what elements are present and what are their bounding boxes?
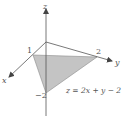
plane-diagram: z y x 1 2 −2 z = 2x + y − 2	[0, 0, 133, 118]
x-axis-label: x	[2, 76, 7, 85]
z-intercept-label: −2	[35, 91, 47, 100]
y-intercept-label: 2	[96, 47, 101, 56]
plane-equation: z = 2x + y − 2	[65, 86, 121, 95]
x-intercept-label: 1	[27, 46, 32, 55]
y-axis-label: y	[114, 58, 120, 67]
z-axis-label: z	[42, 2, 48, 11]
